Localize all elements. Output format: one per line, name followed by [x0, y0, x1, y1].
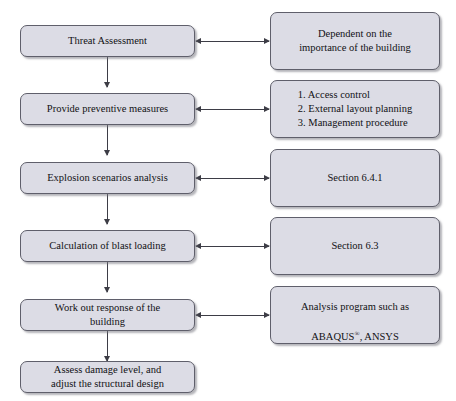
vertical-connector-4	[107, 262, 108, 292]
node-explosion-scenarios[interactable]: Explosion scenarios analysis	[20, 162, 195, 194]
node-section-6-3[interactable]: Section 6.3	[270, 217, 440, 275]
node-dependent-importance[interactable]: Dependent on the importance of the build…	[270, 12, 440, 70]
node-label: Work out response of the building	[55, 301, 160, 329]
node-label: Assess damage level, and adjust the stru…	[51, 363, 164, 391]
node-label: Analysis program such as ABAQUS®, ANSYS	[301, 286, 409, 344]
node-preventive-measures[interactable]: Provide preventive measures	[20, 93, 195, 125]
vertical-connector-5	[107, 331, 108, 361]
node-label-line2: ABAQUS®, ANSYS	[311, 331, 398, 342]
node-label: Provide preventive measures	[47, 102, 168, 116]
vertical-connector-3	[107, 194, 108, 224]
node-label-line1: Analysis program such as	[301, 301, 409, 312]
horizontal-connector-1	[196, 41, 269, 42]
vertical-connector-2	[107, 125, 108, 155]
flowchart-diagram: Threat Assessment Provide preventive mea…	[0, 0, 456, 401]
node-section-6-4-1[interactable]: Section 6.4.1	[270, 149, 440, 207]
node-blast-loading[interactable]: Calculation of blast loading	[20, 230, 195, 262]
node-label: Section 6.4.1	[327, 171, 382, 185]
horizontal-connector-5	[196, 315, 269, 316]
node-label: Dependent on the importance of the build…	[299, 27, 411, 55]
node-label: Explosion scenarios analysis	[47, 171, 168, 185]
node-label: 1. Access control 2. External layout pla…	[298, 88, 412, 131]
node-work-out-response[interactable]: Work out response of the building	[20, 299, 195, 331]
node-label: Section 6.3	[331, 239, 378, 253]
vertical-connector-1	[107, 57, 108, 87]
horizontal-connector-4	[196, 246, 269, 247]
node-assess-damage[interactable]: Assess damage level, and adjust the stru…	[20, 361, 195, 393]
product-name-suffix: , ANSYS	[360, 331, 399, 342]
horizontal-connector-3	[196, 178, 269, 179]
node-preventive-measures-list[interactable]: 1. Access control 2. External layout pla…	[270, 80, 440, 138]
node-analysis-program[interactable]: Analysis program such as ABAQUS®, ANSYS	[270, 286, 440, 344]
product-name: ABAQUS	[311, 331, 354, 342]
node-label: Threat Assessment	[68, 34, 147, 48]
horizontal-connector-2	[196, 109, 269, 110]
node-label: Calculation of blast loading	[49, 239, 165, 253]
node-threat-assessment[interactable]: Threat Assessment	[20, 25, 195, 57]
